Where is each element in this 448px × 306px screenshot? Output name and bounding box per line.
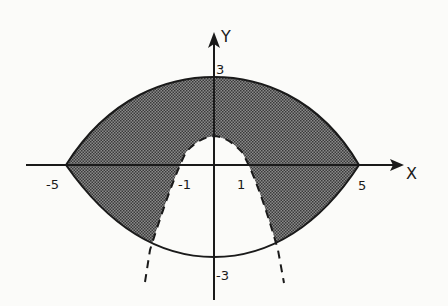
x-axis-label: X [406, 164, 417, 183]
tick-label-x-neg1: -1 [178, 177, 191, 192]
shaded-region [40, 60, 400, 300]
tick-label-y-pos3: 3 [216, 62, 224, 77]
y-axis-label: Y [220, 27, 231, 46]
tick-label-x-pos5: 5 [358, 178, 366, 193]
tick-label-x-neg5: -5 [46, 177, 59, 192]
tick-label-y-neg3: -3 [216, 268, 229, 283]
tick-label-x-pos1: 1 [237, 177, 245, 192]
diagram-canvas: X Y -5 -1 1 5 3 -3 [0, 0, 448, 306]
